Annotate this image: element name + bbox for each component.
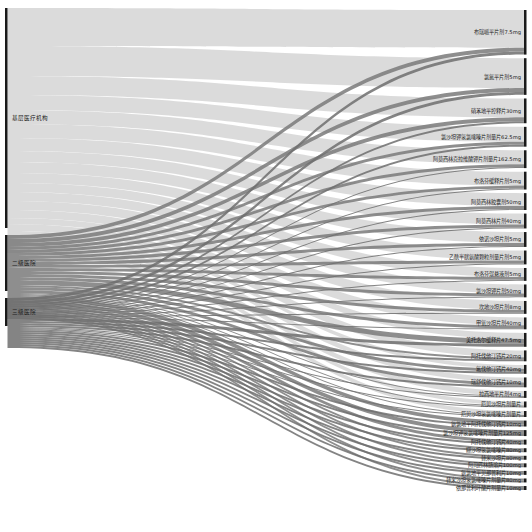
target-label: 替米沙坦片80mg xyxy=(481,454,521,462)
node-right-3[interactable] xyxy=(524,10,527,55)
node-right-12[interactable] xyxy=(524,251,527,265)
target-label: 缬沙坦氢氯噻嗪片80mg xyxy=(466,446,521,454)
node-right-26[interactable] xyxy=(524,440,527,445)
node-right-6[interactable] xyxy=(524,127,527,147)
target-label: 布洛芬混悬液剂5mg xyxy=(474,270,521,278)
node-right-18[interactable] xyxy=(524,350,527,361)
node-right-28[interactable] xyxy=(524,456,527,460)
node-right-7[interactable] xyxy=(524,150,527,168)
node-right-31[interactable] xyxy=(524,478,527,482)
source-label: 二级医院 xyxy=(12,259,36,267)
target-label: 坎地沙坦片剂8mg xyxy=(479,303,521,311)
node-right-27[interactable] xyxy=(524,448,527,452)
target-label: 阿司匹林肠溶片100mg xyxy=(468,461,521,469)
node-right-16[interactable] xyxy=(524,317,527,329)
target-label: 氯沙坦钾氢氯噻嗪片剂量片62.5mg xyxy=(441,133,521,141)
node-right-22[interactable] xyxy=(524,401,527,407)
node-right-21[interactable] xyxy=(524,391,527,398)
target-label: 替米沙坦氢氯噻嗪片剂量片80mg xyxy=(446,476,521,484)
node-right-11[interactable] xyxy=(524,232,527,247)
node-right-32[interactable] xyxy=(524,486,527,490)
target-label: 氯氮平片剂5mg xyxy=(484,73,521,81)
node-right-13[interactable] xyxy=(524,268,527,281)
target-label: 氯沙坦钾氢氯噻嗪片剂量片125mg xyxy=(443,429,521,437)
target-label: 硝苯地平控释片30mg xyxy=(471,107,521,115)
target-label: 依诺沙坦片剂5mg xyxy=(479,235,521,243)
target-label: 依那普利叶酸片剂量片10mg xyxy=(456,484,521,492)
source-label: 基层医疗机构 xyxy=(12,114,48,122)
node-right-9[interactable] xyxy=(524,193,527,210)
link-0-0[interactable] xyxy=(8,8,525,48)
target-label: 氨氯地平阿托伐他汀钙片10mg xyxy=(451,420,521,428)
target-label: 拉西地平片剂4mg xyxy=(479,390,521,398)
node-right-19[interactable] xyxy=(524,365,527,374)
target-label: 阿莫西林克拉维酸钾片剂量片162.5mg xyxy=(433,155,521,163)
target-label: 美托洛尔缓释片47.5mg xyxy=(466,336,521,344)
node-left-0[interactable] xyxy=(5,8,8,228)
source-label: 三级医院 xyxy=(12,308,36,316)
target-label: 布洛芬缓释片剂5mg xyxy=(474,177,521,185)
target-label: 阿莫西林片剂40mg xyxy=(476,217,521,225)
target-label: 布瑞哌平片剂7.5mg xyxy=(474,28,521,36)
node-right-30[interactable] xyxy=(524,471,527,475)
target-label: 氟伐他汀钙片40mg xyxy=(476,365,521,373)
node-right-5[interactable] xyxy=(524,98,527,123)
target-label: 厄贝沙坦氢氯噻嗪片剂量片 xyxy=(461,410,521,418)
target-label: 瑞舒伐他汀钙片10mg xyxy=(471,378,521,386)
node-right-25[interactable] xyxy=(524,430,527,436)
node-right-20[interactable] xyxy=(524,377,527,387)
target-label: 厄贝沙坦片剂量片 xyxy=(481,400,521,408)
node-right-24[interactable] xyxy=(524,421,527,427)
node-right-4[interactable] xyxy=(524,58,527,95)
node-left-2[interactable] xyxy=(5,298,8,326)
target-label: 阿托伐他汀钙片40mg xyxy=(471,438,521,446)
target-label: 阿莫西林胶囊剂50mg xyxy=(471,198,521,206)
sankey-svg: 基层医疗机构二级医院三级医院布瑞哌平片剂7.5mg氯氮平片剂5mg硝苯地平控释片… xyxy=(0,0,532,532)
node-right-17[interactable] xyxy=(524,333,527,347)
node-right-15[interactable] xyxy=(524,301,527,314)
node-right-23[interactable] xyxy=(524,411,527,417)
node-right-14[interactable] xyxy=(524,284,527,297)
node-right-29[interactable] xyxy=(524,463,527,467)
target-label: 氯沙坦钾片剂50mg xyxy=(476,287,521,295)
target-label: 甲氧沙坦片剂40mg xyxy=(476,319,521,327)
target-label: 阿托伐他汀钙片20mg xyxy=(471,352,521,360)
sankey-diagram: 基层医疗机构二级医院三级医院布瑞哌平片剂7.5mg氯氮平片剂5mg硝苯地平控释片… xyxy=(0,0,532,532)
links-layer xyxy=(8,8,525,490)
node-right-8[interactable] xyxy=(524,172,527,190)
node-left-1[interactable] xyxy=(5,235,8,291)
target-label: 氨氯地平贝那普利片10mg xyxy=(461,469,521,477)
target-label: 乙酰半胱氨酸颗粒剂量片剂5mg xyxy=(449,253,521,261)
node-right-10[interactable] xyxy=(524,214,527,229)
